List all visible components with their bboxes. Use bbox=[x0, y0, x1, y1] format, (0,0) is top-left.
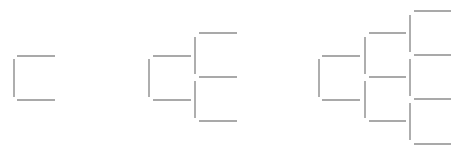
stage-iteration-2 bbox=[149, 33, 237, 121]
stage-iteration-1 bbox=[14, 56, 55, 100]
stage-iteration-3 bbox=[319, 11, 451, 144]
diagram-canvas bbox=[0, 0, 461, 154]
fractal-diagram bbox=[0, 0, 461, 154]
